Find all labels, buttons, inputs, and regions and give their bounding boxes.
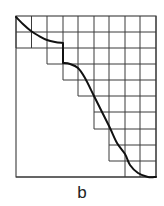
- figure-caption: b: [0, 183, 164, 203]
- descending-curve: [16, 17, 156, 177]
- staircase-grid: [16, 16, 156, 177]
- staircase-grid-diagram: [0, 0, 164, 206]
